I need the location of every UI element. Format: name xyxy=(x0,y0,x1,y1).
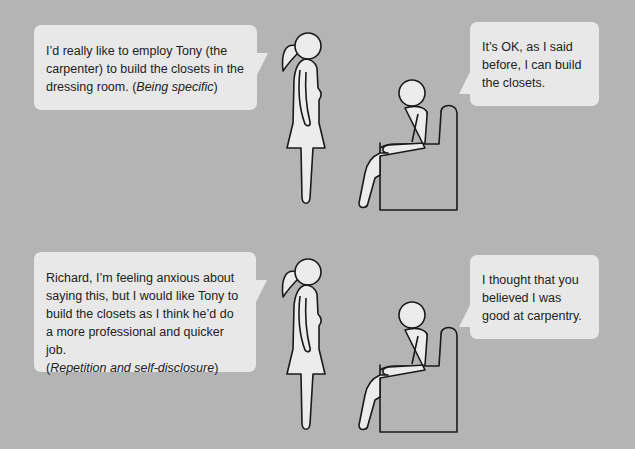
bubble-tail xyxy=(459,72,470,94)
technique-label: Being specific xyxy=(136,80,213,94)
standing-woman-icon xyxy=(275,254,335,439)
speech-bubble-man-2: I thought that you believed I was good a… xyxy=(470,255,599,339)
standing-woman-icon xyxy=(275,28,335,213)
speech-bubble-woman-2: Richard, I’m feeling anxious about sayin… xyxy=(34,252,256,372)
bubble-text: I thought that you believed I was good a… xyxy=(482,271,587,325)
technique-label: Repetition and self-disclosure xyxy=(50,361,214,375)
seated-man-icon xyxy=(355,300,465,435)
bubble-tail xyxy=(257,53,268,75)
speech-bubble-man-1: It’s OK, as I said before, I can build t… xyxy=(470,22,599,106)
bubble-text: I’d really like to employ Tony (the carp… xyxy=(46,42,245,96)
speech-bubble-woman-1: I’d really like to employ Tony (the carp… xyxy=(34,25,257,110)
bubble-text: Richard, I’m feeling anxious about sayin… xyxy=(46,269,244,377)
bubble-tail xyxy=(459,305,470,327)
seated-man-icon xyxy=(355,78,465,213)
bubble-tail xyxy=(256,280,267,302)
bubble-text: It’s OK, as I said before, I can build t… xyxy=(482,38,587,92)
